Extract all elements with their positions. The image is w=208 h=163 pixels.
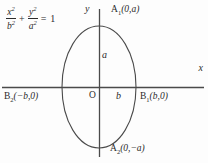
plus-operator: + — [18, 14, 26, 24]
origin-label: O — [89, 91, 96, 101]
vertex-label-a2: A2(0,−a) — [110, 144, 145, 155]
semi-minor-axis-label: b — [116, 91, 121, 101]
ellipse-equation: x2 b2 + y2 a2 = 1 — [6, 6, 56, 31]
ellipse-diagram: x2 b2 + y2 a2 = 1 x y O A1(0,a) A2(0,−a)… — [0, 0, 208, 163]
fraction-numerator-y: y2 — [28, 6, 37, 18]
x-axis-label: x — [199, 63, 203, 73]
fraction-x-over-b: x2 b2 — [6, 6, 16, 31]
fraction-numerator-x: x2 — [6, 6, 15, 18]
fraction-denominator-b: b2 — [6, 19, 16, 31]
fraction-y-over-a: y2 a2 — [28, 6, 38, 31]
equation-rhs: 1 — [49, 14, 56, 24]
vertex-label-b2: B2(−b,0) — [4, 92, 38, 103]
semi-major-axis-label: a — [102, 50, 107, 60]
y-axis-label: y — [85, 4, 89, 14]
fraction-denominator-a: a2 — [28, 19, 38, 31]
equals-operator: = — [40, 14, 48, 24]
vertex-label-b1: B1(b,0) — [140, 92, 168, 103]
vertex-label-a1: A1(0,a) — [111, 5, 139, 16]
